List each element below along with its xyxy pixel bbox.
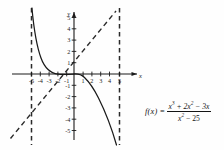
y-axis-arrowhead-icon <box>72 12 76 18</box>
x-tick-label-5: 5 <box>118 77 121 84</box>
x-tick-label--5: -5 <box>29 77 34 84</box>
y-tick-label-3: 3 <box>67 36 70 43</box>
x-tick-label-2: 2 <box>90 77 93 84</box>
x-tick-label--3: -3 <box>47 77 52 84</box>
y-tick-label--3: -3 <box>65 104 70 111</box>
equation-equals-sign: = <box>160 107 165 116</box>
x-tick-label--4: -4 <box>38 77 43 84</box>
x-tick-label-3: 3 <box>99 77 102 84</box>
x-tick-label--2: -2 <box>55 77 60 84</box>
y-tick-label-4: 4 <box>67 25 70 32</box>
equation-lhs: f(x) <box>145 107 157 116</box>
equation-fraction: x3 + 2x2 − 3x x2 − 25 <box>167 101 211 122</box>
equation-denominator: x2 − 25 <box>177 112 202 122</box>
rational-function-figure: -5 -4 -3 -2 -1 1 2 3 4 5 1 2 3 4 5 -1 -2… <box>0 0 224 150</box>
x-axis-arrowhead-icon <box>132 72 138 76</box>
y-tick-label-2: 2 <box>67 48 70 55</box>
y-axis-label: y <box>66 10 70 17</box>
curve-branch-middle <box>74 74 117 145</box>
y-tick-label--4: -4 <box>65 116 70 123</box>
y-tick-label-1: 1 <box>67 59 70 66</box>
y-tick-label--2: -2 <box>65 93 70 100</box>
graph-canvas: -5 -4 -3 -2 -1 1 2 3 4 5 1 2 3 4 5 -1 -2… <box>0 0 224 150</box>
equation-numerator: x3 + 2x2 − 3x <box>167 101 211 111</box>
y-tick-label--1: -1 <box>65 82 70 89</box>
y-tick-label--5: -5 <box>65 127 70 134</box>
x-tick-label-4: 4 <box>108 77 111 84</box>
function-equation: f(x) = x3 + 2x2 − 3x x2 − 25 <box>145 101 211 122</box>
x-axis-label: x <box>138 72 142 79</box>
